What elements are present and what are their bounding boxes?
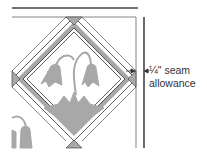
seam-allowance-label: ¼" seam allowance bbox=[149, 64, 196, 90]
label-line-2: allowance bbox=[149, 77, 196, 90]
neighbor-bluebell bbox=[12, 116, 32, 148]
label-line-1: ¼" seam bbox=[149, 64, 196, 77]
